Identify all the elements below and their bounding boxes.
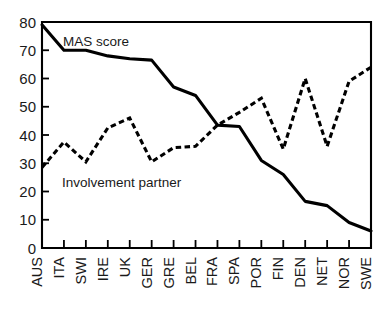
x-category-label-swe: SWE: [358, 257, 374, 290]
x-axis-category-labels: AUSITASWIIREUKGERGREBELFRASPAPORFINDENNE…: [29, 257, 374, 290]
x-category-label-ger: GER: [139, 257, 155, 288]
y-tick-label: 0: [28, 240, 36, 257]
line-chart: 01020304050607080 AUSITASWIIREUKGERGREBE…: [0, 0, 384, 309]
series-layer: [42, 25, 371, 231]
x-category-label-fra: FRA: [204, 257, 220, 286]
y-tick-label: 20: [19, 183, 36, 200]
series-line-mas-score: [42, 25, 371, 231]
x-category-label-aus: AUS: [29, 257, 45, 287]
x-axis-ticks: [64, 240, 349, 248]
x-category-label-uk: UK: [117, 257, 133, 277]
x-category-label-swi: SWI: [73, 257, 89, 284]
x-category-label-fin: FIN: [270, 257, 286, 280]
y-tick-label: 10: [19, 211, 36, 228]
x-category-label-bel: BEL: [183, 257, 199, 284]
y-tick-label: 70: [19, 42, 36, 59]
y-tick-label: 50: [19, 98, 36, 115]
y-tick-label: 30: [19, 155, 36, 172]
y-tick-label: 60: [19, 70, 36, 87]
x-category-label-net: NET: [314, 257, 330, 286]
x-category-label-spa: SPA: [226, 257, 242, 285]
annotation-mas-score: MAS score: [63, 34, 129, 49]
x-category-label-gre: GRE: [161, 257, 177, 289]
series-line-involvement-partner: [42, 67, 371, 167]
annotation-involvement-partner: Involvement partner: [62, 175, 182, 190]
y-tick-label: 80: [19, 14, 36, 31]
y-axis-tick-labels: 01020304050607080: [19, 14, 36, 257]
x-category-label-den: DEN: [292, 257, 308, 288]
x-category-label-ire: IRE: [95, 257, 111, 282]
x-category-label-ita: ITA: [51, 257, 67, 279]
y-tick-label: 40: [19, 127, 36, 144]
chart-container: 01020304050607080 AUSITASWIIREUKGERGREBE…: [0, 0, 384, 309]
x-category-label-nor: NOR: [336, 257, 352, 289]
x-category-label-por: POR: [248, 257, 264, 288]
